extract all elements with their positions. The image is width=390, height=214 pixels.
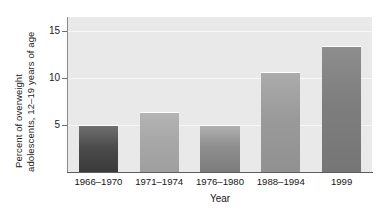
- bar: [322, 46, 361, 172]
- y-tick-label-10: 10: [40, 72, 60, 83]
- bar: [261, 72, 300, 173]
- x-axis-tick-labels: 1966–19701971–19741976–19801988–19941999: [68, 176, 372, 192]
- bar: [200, 125, 239, 172]
- y-axis-title-line-2: adolescents, 12–19 years of age: [25, 32, 36, 172]
- y-axis-title: Percent of overweight adolescents, 12–19…: [0, 0, 44, 180]
- plot-area: [68, 17, 372, 172]
- bar-series: [68, 17, 372, 172]
- x-tick-label: 1966–1970: [68, 176, 129, 187]
- x-tick-label: 1988–1994: [250, 176, 311, 187]
- y-tick-label-5: 5: [40, 119, 60, 130]
- x-tick-label: 1999: [311, 176, 372, 187]
- chart-figure: Percent of overweight adolescents, 12–19…: [0, 0, 390, 214]
- x-axis-title: Year: [68, 193, 372, 204]
- x-tick-label: 1976–1980: [190, 176, 251, 187]
- y-tick-label-15: 15: [40, 25, 60, 36]
- x-axis-line: [67, 172, 373, 173]
- bar: [79, 125, 118, 172]
- y-axis-title-line-1: Percent of overweight: [13, 74, 24, 168]
- bar: [140, 112, 179, 172]
- y-axis-tick-labels: 15105: [40, 0, 60, 214]
- x-tick-label: 1971–1974: [129, 176, 190, 187]
